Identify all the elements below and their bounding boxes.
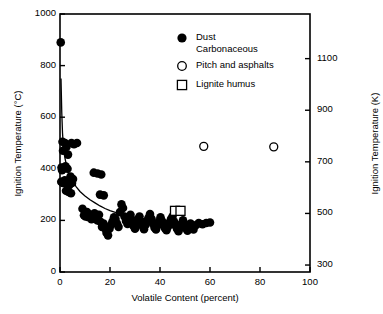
chart-figure: Ignition Temperature (°C) Ignition Tempe… (0, 0, 383, 314)
y-tick-label-left-3: 600 (40, 110, 56, 121)
x-tick-label-1: 20 (105, 276, 116, 287)
legend-marker-open-circle (178, 62, 187, 71)
y-tick-label-left-5: 1000 (35, 7, 56, 18)
x-tick-label-3: 60 (205, 276, 216, 287)
y-tick-label-right-0: 300 (317, 258, 333, 269)
x-axis-title: Volatile Content (percent) (60, 292, 310, 303)
y-axis-left-title: Ignition Temperature (°C) (12, 64, 23, 224)
x-tick-label-5: 100 (302, 276, 318, 287)
legend-label-1: Pitch and asphalts (196, 59, 274, 70)
y-tick-label-right-2: 700 (317, 155, 333, 166)
y-axis-right-title: Ignition Temperature (K) (369, 64, 380, 224)
y-tick-label-right-3: 900 (317, 103, 333, 114)
x-tick-label-4: 80 (255, 276, 266, 287)
legend-label-2: Lignite humus (196, 78, 255, 89)
y-tick-label-left-1: 200 (40, 213, 56, 224)
y-tick-label-left-4: 800 (40, 59, 56, 70)
x-tick-label-2: 40 (155, 276, 166, 287)
legend-marker-filled-circle (177, 33, 186, 42)
legend-label-0: Dust (196, 31, 216, 42)
legend-marker-open-square (177, 80, 186, 89)
x-tick-label-0: 0 (57, 276, 62, 287)
y-tick-label-left-2: 400 (40, 162, 56, 173)
y-tick-label-right-1: 500 (317, 206, 333, 217)
y-tick-label-right-4: 1100 (317, 52, 337, 63)
legend-label-0-line2: Carbonaceous (196, 43, 258, 54)
y-tick-label-left-0: 0 (51, 265, 56, 276)
series-lignite-humus (171, 206, 186, 215)
